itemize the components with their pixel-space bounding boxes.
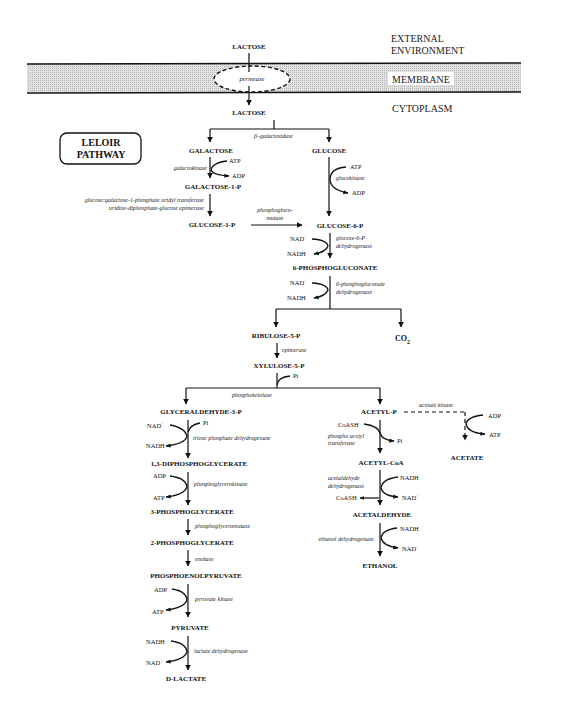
lactose-external: LACTOSE	[232, 43, 266, 51]
ethanol: ETHANOL	[362, 562, 397, 570]
zone-external-2: ENVIRONMENT	[391, 45, 464, 56]
2-phosphoglycerate: 2-PHOSPHOGLYCERATE	[150, 539, 234, 547]
co2: CO2	[395, 334, 410, 345]
acetate-kinase-adp: ADP	[488, 412, 501, 419]
nadh-2: NADH	[287, 294, 306, 301]
lactate-dehydrogenase: lactate dehydrogenase	[194, 648, 248, 654]
acetate-kinase: acetate kinase	[419, 402, 453, 408]
pgk-adp: ADP	[153, 472, 166, 479]
acetyl-coa: ACETYL-CoA	[358, 459, 403, 467]
phosphoketolase-pi: Pi	[293, 372, 299, 379]
zone-membrane: MEMBRANE	[392, 74, 450, 85]
phospho-acetyl-transferase-2: transferase	[328, 440, 355, 446]
zone-cytoplasm: CYTOPLASM	[392, 103, 452, 114]
triose-phosphate-dehydrogenase: triose phosphate dehydrogenase	[193, 435, 271, 441]
glucose-1-p: GLUCOSE-1-P	[189, 221, 236, 229]
galactose: GALACTOSE	[189, 147, 233, 155]
galactose-1-p: GALACTOSE-1-P	[185, 183, 242, 191]
acetaldehyde-dehydrogenase-2: dehydrogenase	[328, 483, 364, 489]
glucokinase-atp: ATP	[350, 163, 362, 170]
d-lactate: D-LACTATE	[166, 675, 207, 683]
glucose-6-p: GLUCOSE-6-P	[317, 222, 364, 230]
1-3-diphosphoglycerate: 1,3-DIPHOSPHOGLYCERATE	[151, 460, 248, 468]
lactose-metabolism-diagram: EXTERNAL ENVIRONMENT MEMBRANE CYTOPLASM …	[0, 0, 573, 712]
epimerase: epimerase	[282, 347, 307, 353]
phospho-acetyl-transferase-1: phospho acetyl	[327, 433, 364, 439]
glucokinase-adp: ADP	[352, 189, 365, 196]
glucokinase: glucokinase	[336, 175, 365, 181]
g3p-nad: NAD+	[147, 421, 164, 429]
nadh-1: NADH	[287, 250, 306, 257]
phosphoketolase: phosphoketolase	[231, 392, 272, 398]
acetyl-p: ACETYL-P	[361, 408, 398, 416]
pta-pi: Pi	[397, 437, 403, 444]
adh-nad: NAD+	[402, 493, 419, 501]
pyruvate-kinase: pyruvate kinase	[194, 596, 233, 602]
glyceraldehyde-3-p: GLYCERALDEHYDE-3-P	[160, 408, 242, 416]
acetate: ACETATE	[451, 454, 484, 462]
pta-coash: CoASH	[338, 421, 359, 428]
6pg-dehydrogenase-2: dehydrogenase	[336, 289, 372, 295]
6pg-dehydrogenase-1: 6-phosphogluconate	[336, 281, 385, 287]
edh-nadh: NADH	[400, 525, 419, 532]
enolase: enolase	[195, 556, 214, 562]
3-phosphoglycerate: 3-PHOSPHOGLYCERATE	[150, 508, 234, 516]
ldh-nadh: NADH	[146, 638, 165, 645]
pyruvate: PYRUVATE	[171, 624, 209, 632]
ldh-nad: NAD+	[146, 658, 163, 666]
pk-adp: ADP	[154, 586, 167, 593]
edh-nad: NAD+	[402, 544, 419, 552]
leloir-atp: ATP	[229, 157, 241, 164]
acetate-kinase-atp: ATP	[489, 431, 501, 438]
zone-external-1: EXTERNAL	[391, 33, 444, 44]
acetaldehyde: ACETALDEHYDE	[353, 511, 412, 519]
phosphoglycerokinase: phosphoglycerokinase	[193, 481, 248, 487]
pgk-atp: ATP	[153, 494, 165, 501]
beta-galactosidase: β–galactosidase	[253, 133, 293, 139]
phosphoglyceromutase: phosphoglyceromutase	[194, 523, 250, 529]
xylulose-5-p: XYLULOSE-5-P	[254, 362, 306, 370]
nad-1: NAD+	[290, 234, 307, 242]
g3p-pi: Pi	[203, 419, 209, 426]
phosphoglucomutase-2: mutase	[267, 215, 284, 221]
pk-atp: ATP	[152, 608, 164, 615]
phosphoenolpyruvate: PHOSPHOENOLPYRUVATE	[150, 572, 242, 580]
ethanol-dehydrogenase: ethanol dehydrogenase	[318, 536, 374, 542]
adh-coash: CoASH	[336, 494, 357, 501]
phosphoglucomutase-1: phosphogluco-	[256, 207, 293, 213]
6-phosphogluconate: 6-PHOSPHOGLUCONATE	[293, 264, 378, 272]
galactokinase: galactokinase	[174, 165, 208, 171]
g6p-dehydrogenase-2: dehydrogenase	[336, 243, 372, 249]
permease-label: permease	[239, 75, 265, 82]
uridyl-transferase: glucose:galactose-1-phosphate uridyl tra…	[85, 197, 205, 203]
svg-text:PATHWAY: PATHWAY	[77, 149, 126, 160]
g3p-nadh: NADH	[146, 442, 165, 449]
svg-text:LELOIR: LELOIR	[82, 137, 122, 148]
glucose: GLUCOSE	[312, 147, 347, 155]
leloir-pathway-box: LELOIR PATHWAY	[60, 133, 141, 164]
ribulose-5-p: RIBULOSE-5-P	[252, 332, 301, 340]
adh-nadh: NADH	[400, 474, 419, 481]
udp-glucose-epimerase: uridine-diphosphate-glucose epimerase	[109, 205, 204, 211]
acetaldehyde-dehydrogenase-1: acetaldehyde	[328, 475, 360, 481]
g6p-dehydrogenase-1: glucose-6-P	[336, 235, 365, 241]
leloir-adp: ADP	[232, 172, 245, 179]
lactose-cytoplasm: LACTOSE	[232, 109, 266, 117]
nad-2: NAD+	[290, 278, 307, 286]
